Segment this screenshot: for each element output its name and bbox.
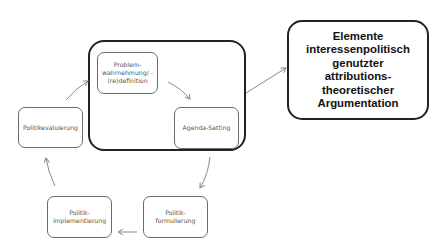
- outcome-box: Elemente interessenpolitisch genutzter a…: [287, 20, 429, 120]
- arrow-implementation-to-evaluation: [46, 158, 55, 186]
- stage-label: Politikevaluierung: [23, 124, 78, 132]
- stage-policy-formulation: Politik- formulierung: [143, 196, 208, 238]
- stage-label: Problem- wahrnehmung/ - (re)definition: [102, 61, 153, 85]
- stage-problem-definition: Problem- wahrnehmung/ - (re)definition: [97, 52, 158, 94]
- stage-label: Agenda-Setting: [183, 124, 231, 132]
- arrow-frame-to-outcome: [246, 68, 286, 93]
- stage-policy-evaluation: Politikevaluierung: [18, 107, 83, 148]
- stage-label: Politik- formulierung: [156, 209, 196, 225]
- arrow-agenda-to-formulation: [200, 157, 210, 188]
- stage-agenda-setting: Agenda-Setting: [174, 107, 239, 149]
- outcome-label: Elemente interessenpolitisch genutzter a…: [306, 30, 410, 111]
- stage-label: Politik- implementierung: [53, 209, 106, 225]
- stage-policy-implementation: Politik- implementierung: [47, 196, 112, 238]
- arrow-evaluation-to-problem: [66, 81, 88, 100]
